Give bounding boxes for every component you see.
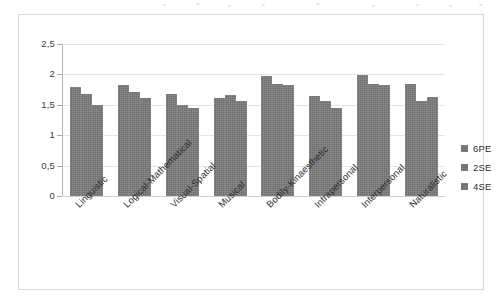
y-axis-tick-label: 0,5 [21,161,55,171]
y-axis-tick [57,44,62,45]
chart-legend: 6PE2SE4SE [461,139,501,196]
y-axis-tick [57,105,62,106]
bar[interactable] [225,95,236,196]
bar[interactable] [405,84,416,196]
bar[interactable] [261,76,272,196]
legend-label: 2SE [473,162,492,173]
legend-label: 6PE [473,143,492,154]
legend-swatch-icon [461,164,468,171]
scan-speck [372,5,375,7]
y-axis-tick [57,166,62,167]
bar[interactable] [368,84,379,196]
scan-speck [316,3,320,5]
y-axis-tick-label: 1,5 [21,100,55,110]
bar[interactable] [214,98,225,196]
y-axis-tick-label: 2 [21,69,55,79]
y-axis-tick [57,74,62,75]
y-axis-tick-label: 1 [21,130,55,140]
x-axis-category-labels: LinguisticLogical-MathematicalVisual-Spa… [63,196,445,303]
bar[interactable] [70,87,81,196]
bar-group [206,44,254,196]
y-axis-tick [57,135,62,136]
legend-swatch-icon [461,145,468,152]
scan-speck [196,3,200,5]
scan-speck [262,4,265,6]
bar[interactable] [357,75,368,196]
y-axis-tick-labels: 00,511,522,5 [19,15,55,303]
y-axis-tick [57,196,62,197]
bar[interactable] [272,84,283,196]
scan-speck [228,5,231,7]
scan-speck [479,4,483,6]
bar[interactable] [129,92,140,196]
scan-speck [449,5,452,7]
legend-swatch-icon [461,183,468,190]
legend-item[interactable]: 6PE [461,139,501,158]
scan-artifact-band [0,0,501,14]
bar[interactable] [81,94,92,196]
legend-item[interactable]: 4SE [461,177,501,196]
bar-group [63,44,111,196]
bar[interactable] [166,94,177,196]
y-axis-tick-label: 0 [21,191,55,201]
scan-speck [163,4,166,6]
legend-label: 4SE [473,181,492,192]
scan-speck [416,4,419,6]
bar[interactable] [416,101,427,196]
chart-frame: 00,511,522,5 LinguisticLogical-Mathemati… [18,14,484,290]
bar[interactable] [118,85,129,196]
y-axis-tick-label: 2,5 [21,39,55,49]
legend-item[interactable]: 2SE [461,158,501,177]
